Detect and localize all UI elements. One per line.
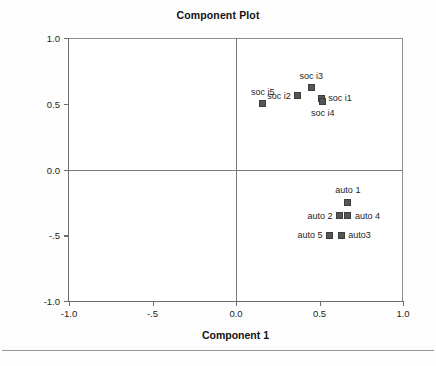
x-axis-tick (320, 301, 321, 306)
x-axis-tick-label: -.5 (147, 308, 158, 319)
data-point-label: auto 1 (335, 185, 360, 195)
page-title: Component Plot (0, 9, 436, 21)
y-axis-tick-label: -.5 (49, 230, 60, 241)
data-point-label: auto3 (348, 230, 371, 240)
data-point-label: soc i4 (311, 108, 335, 118)
data-point-marker (338, 232, 345, 239)
data-point-marker (344, 212, 351, 219)
x-axis-tick (403, 301, 404, 306)
data-point-marker (344, 199, 351, 206)
data-point-label: soc i3 (299, 71, 323, 81)
data-point-label: soc i1 (328, 93, 352, 103)
x-axis-title: Component 1 (68, 329, 403, 341)
data-point-marker (336, 212, 343, 219)
x-axis-tick (153, 301, 154, 306)
footer-divider (2, 350, 434, 351)
data-point-marker (294, 92, 301, 99)
y-axis-tick (64, 104, 69, 105)
plot-area: -1.0-.50.00.51.0-1.0-.50.00.51.0soc i5so… (68, 38, 403, 302)
x-axis-tick-label: 0.0 (229, 308, 242, 319)
y-axis-tick (64, 170, 69, 171)
y-axis-tick (64, 38, 69, 39)
x-axis-tick-label: 1.0 (396, 308, 409, 319)
y-axis-tick-label: 1.0 (47, 33, 60, 44)
y-axis-tick-label: 0.5 (47, 98, 60, 109)
data-point-marker (259, 100, 266, 107)
data-point-label: auto 4 (355, 211, 380, 221)
zero-line-vertical (236, 38, 237, 301)
data-point-marker (319, 98, 326, 105)
component-plot-figure: Component Plot -1.0-.50.00.51.0-1.0-.50.… (0, 0, 436, 366)
y-axis-tick-label: 0.0 (47, 164, 60, 175)
data-point-label: auto 5 (297, 230, 322, 240)
data-point-marker (308, 84, 315, 91)
data-point-label: soc i2 (267, 91, 291, 101)
x-axis-tick-label: -1.0 (61, 308, 77, 319)
y-axis-tick-label: -1.0 (44, 296, 60, 307)
x-axis-tick-label: 0.5 (313, 308, 326, 319)
x-axis-tick (69, 301, 70, 306)
data-point-marker (326, 232, 333, 239)
x-axis-tick (236, 301, 237, 306)
y-axis-tick (64, 235, 69, 236)
data-point-label: auto 2 (308, 211, 333, 221)
